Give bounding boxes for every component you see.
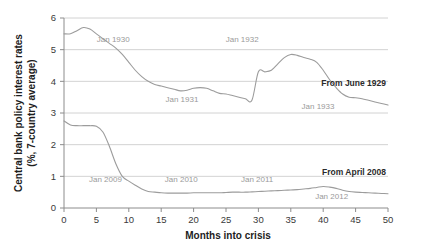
annotation-jan-1933: Jan 1933	[302, 102, 335, 111]
annotation-jan-1932: Jan 1932	[226, 35, 259, 44]
y-axis-tick-labels: 0123456	[51, 12, 56, 213]
y-tick-label-0: 0	[51, 202, 56, 213]
x-tick-label-50: 50	[383, 214, 394, 225]
chart-container: 0123456 05101520253035404550 Jan 1930Jan…	[0, 0, 429, 252]
x-tick-label-35: 35	[286, 214, 297, 225]
series-label-from-april-2008: From April 2008	[322, 167, 386, 177]
x-tick-label-25: 25	[221, 214, 232, 225]
x-tick-label-15: 15	[156, 214, 167, 225]
annotation-jan-2009: Jan 2009	[89, 175, 122, 184]
x-axis-title: Months into crisis	[185, 230, 271, 241]
annotation-jan-2011: Jan 2011	[241, 175, 274, 184]
y-axis-title-line1: Central bank policy interest rates	[13, 34, 24, 192]
x-tick-label-30: 30	[253, 214, 264, 225]
y-axis-title-line2: (%, 7-country average)	[26, 59, 37, 166]
annotation-jan-1931: Jan 1931	[165, 95, 198, 104]
annotation-jan-2012: Jan 2012	[315, 192, 348, 201]
y-axis-title: Central bank policy interest rates (%, 7…	[13, 34, 37, 192]
x-tick-label-5: 5	[94, 214, 99, 225]
x-tick-label-40: 40	[318, 214, 329, 225]
y-tick-label-4: 4	[51, 76, 56, 87]
annotation-jan-1930: Jan 1930	[97, 35, 130, 44]
x-tick-label-0: 0	[61, 214, 66, 225]
y-tick-label-2: 2	[51, 139, 56, 150]
y-tick-label-1: 1	[51, 171, 56, 182]
x-tick-label-10: 10	[124, 214, 135, 225]
x-axis-tick-labels: 05101520253035404550	[61, 214, 393, 225]
y-tick-label-3: 3	[51, 107, 56, 118]
y-tick-label-5: 5	[51, 44, 56, 55]
x-tick-label-20: 20	[188, 214, 199, 225]
series-label-from-june-1929: From June 1929	[321, 78, 386, 88]
line-chart: 0123456 05101520253035404550 Jan 1930Jan…	[0, 0, 429, 252]
annotation-jan-2010: Jan 2010	[165, 175, 198, 184]
x-tick-label-45: 45	[350, 214, 361, 225]
series-labels: From June 1929From April 2008	[321, 78, 386, 177]
y-tick-label-6: 6	[51, 12, 56, 23]
